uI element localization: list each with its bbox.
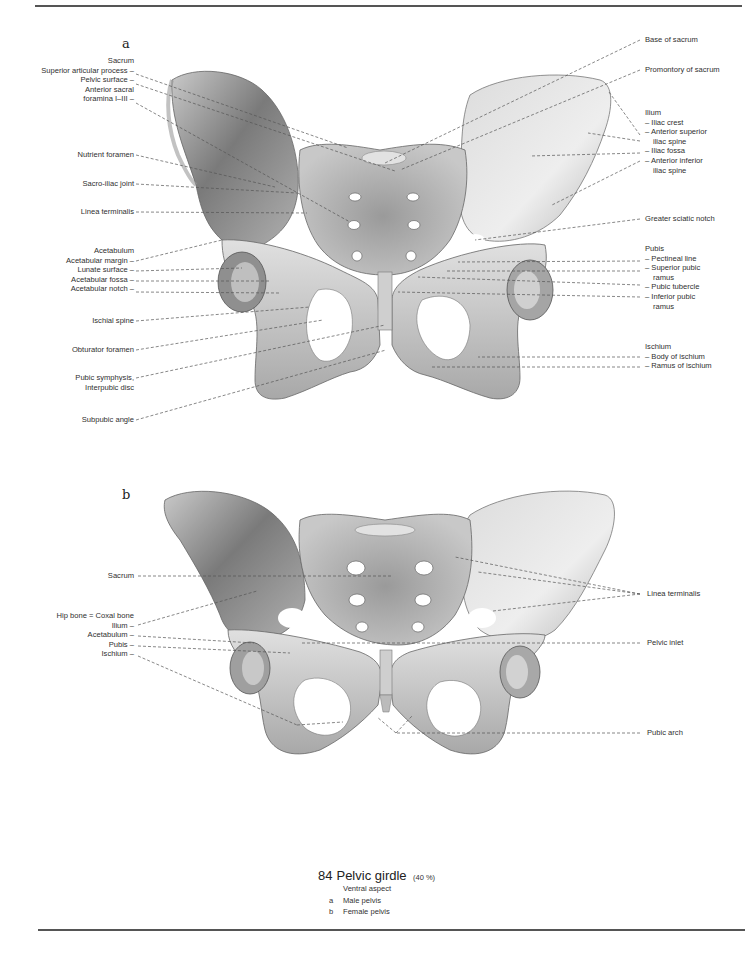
label-group-acetabulum: Acetabulum Acetabular margin – Lunate su… (66, 246, 134, 294)
label-anterior-superior: – Anterior superior (645, 127, 707, 137)
figure-title: Pelvic girdle (336, 868, 406, 883)
label-interpubic-disc: Interpubic disc (75, 383, 134, 393)
label-ilium-b: Ilium – (57, 621, 134, 631)
legend-b-key: b (329, 907, 343, 916)
label-pubis: Pubis (645, 244, 700, 254)
label-group-hip-bone: Hip bone = Coxal bone Ilium – Acetabulum… (57, 611, 134, 659)
label-lunate-surface: Lunate surface – (66, 265, 134, 275)
label-linea-terminalis-b: Linea terminalis (647, 589, 700, 599)
label-iliac-fossa: – Iliac fossa (645, 146, 707, 156)
label-iliac-spine-2: iliac spine (645, 166, 707, 176)
label-superior-pubic: – Superior pubic (645, 263, 700, 273)
label-anterior-inferior: – Anterior inferior (645, 156, 707, 166)
label-ischium: Ischium (645, 342, 712, 352)
figure-number: 84 (318, 868, 332, 883)
label-ramus-1: ramus (645, 273, 700, 283)
label-base-of-sacrum: Base of sacrum (645, 35, 698, 45)
label-acetabular-margin: Acetabular margin – (66, 256, 134, 266)
label-greater-sciatic-notch: Greater sciatic notch (645, 214, 715, 224)
label-group-ischium: Ischium – Body of ischium – Ramus of isc… (645, 342, 712, 371)
label-pubic-arch: Pubic arch (647, 728, 683, 738)
label-ramus-2: ramus (645, 302, 700, 312)
label-acetabular-fossa: Acetabular fossa – (66, 275, 134, 285)
label-iliac-crest: – Iliac crest (645, 118, 707, 128)
legend-a: aMale pelvis (329, 896, 381, 905)
label-sacrum: Sacrum (41, 56, 134, 66)
label-ilium: Ilium (645, 108, 707, 118)
legend-b: bFemale pelvis (329, 907, 390, 916)
label-obturator-foramen: Obturator foramen (72, 345, 134, 355)
panel-b-letter: b (122, 487, 130, 502)
legend-a-text: Male pelvis (343, 896, 381, 905)
label-pubic-tubercle: – Pubic tubercle (645, 282, 700, 292)
label-superior-articular-process: Superior articular process – (41, 66, 134, 76)
label-ramus-of-ischium: – Ramus of ischium (645, 361, 712, 371)
pelvis-illustrations (0, 0, 756, 955)
label-body-of-ischium: – Body of ischium (645, 352, 712, 362)
label-inferior-pubic: – Inferior pubic (645, 292, 700, 302)
figure-scale: (40 %) (413, 873, 435, 882)
label-ischium-b: Ischium – (57, 649, 134, 659)
legend-b-text: Female pelvis (343, 907, 390, 916)
label-acetabulum-b: Acetabulum – (57, 630, 134, 640)
label-nutrient-foramen: Nutrient foramen (77, 150, 134, 160)
label-pectineal-line: – Pectineal line (645, 254, 700, 264)
panel-a-letter: a (122, 36, 130, 51)
label-acetabulum: Acetabulum (66, 246, 134, 256)
figure-aspect: Ventral aspect (343, 884, 391, 893)
label-sacro-iliac-joint: Sacro-iliac joint (83, 179, 135, 189)
legend-a-key: a (329, 896, 343, 905)
label-anterior-sacral: Anterior sacral (41, 85, 134, 95)
label-acetabular-notch: Acetabular notch – (66, 284, 134, 294)
label-group-pubic-symphysis: Pubic symphysis, Interpubic disc (75, 373, 134, 392)
male-pelvis-drawing (168, 71, 611, 399)
label-ischial-spine: Ischial spine (92, 316, 134, 326)
label-foramina: foramina I–III – (41, 94, 134, 104)
label-pelvic-surface: Pelvic surface – (41, 75, 134, 85)
label-group-sacrum: Sacrum Superior articular process – Pelv… (41, 56, 134, 104)
label-hip-bone: Hip bone = Coxal bone (57, 611, 134, 621)
label-pubis-b: Pubis – (57, 640, 134, 650)
label-linea-terminalis-a: Linea terminalis (81, 207, 134, 217)
label-iliac-spine-1: iliac spine (645, 137, 707, 147)
label-pelvic-inlet: Pelvic inlet (647, 638, 683, 648)
female-pelvis-drawing (164, 491, 614, 754)
label-subpubic-angle: Subpubic angle (82, 415, 134, 425)
label-sacrum-b: Sacrum (108, 571, 134, 581)
figure-caption: 84Pelvic girdle (40 %) (318, 866, 435, 884)
label-pubic-symphysis: Pubic symphysis, (75, 373, 134, 383)
label-group-ilium: Ilium – Iliac crest – Anterior superior … (645, 108, 707, 175)
label-promontory: Promontory of sacrum (645, 65, 720, 75)
label-group-pubis: Pubis – Pectineal line – Superior pubic … (645, 244, 700, 311)
